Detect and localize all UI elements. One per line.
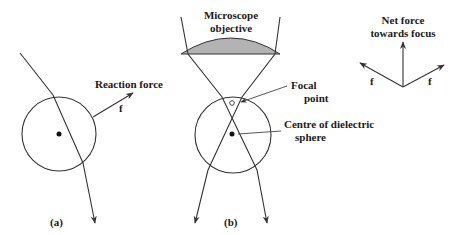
left-force-symbol: f bbox=[370, 75, 374, 87]
force-vector-diagram: Net force towards focus f f bbox=[360, 14, 444, 87]
right-force-symbol: f bbox=[428, 75, 432, 87]
focal-point-pointer bbox=[241, 86, 287, 102]
centre-label-line2: sphere bbox=[295, 131, 326, 143]
centre-pointer bbox=[238, 131, 281, 134]
refracted-ray-a bbox=[20, 53, 95, 223]
objective-label-line2: objective bbox=[210, 22, 252, 34]
panel-a-label: (a) bbox=[50, 216, 63, 229]
net-force-label-line2: towards focus bbox=[370, 27, 436, 39]
net-force-label-line1: Net force bbox=[382, 14, 425, 26]
sphere-centre-dot-a bbox=[57, 132, 62, 137]
force-symbol-a: f bbox=[119, 102, 123, 114]
right-force-arrow bbox=[403, 65, 444, 87]
focal-point-marker bbox=[230, 101, 235, 106]
left-force-arrow bbox=[360, 63, 403, 87]
sphere-centre-dot-b bbox=[230, 132, 235, 137]
focal-label-line2: point bbox=[304, 92, 329, 104]
panel-b-label: (b) bbox=[224, 216, 238, 229]
panel-a: Reaction force f (a) bbox=[20, 53, 163, 229]
reaction-force-arrow bbox=[93, 93, 133, 117]
microscope-objective-lens bbox=[181, 38, 280, 54]
objective-label-line1: Microscope bbox=[204, 9, 258, 21]
optical-tweezers-diagram: Reaction force f (a) Microscope objectiv… bbox=[0, 0, 460, 235]
panel-b: Microscope objective Focal point Centre … bbox=[181, 9, 374, 229]
centre-label-line1: Centre of dielectric bbox=[284, 118, 374, 130]
reaction-force-label: Reaction force bbox=[95, 78, 163, 90]
focal-label-line1: Focal bbox=[291, 79, 317, 91]
